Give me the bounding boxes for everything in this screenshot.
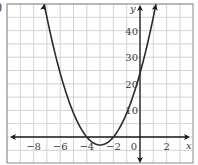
y-tick-label: 30: [125, 52, 138, 63]
y-tick-label: 10: [125, 105, 138, 116]
tick-labels: −8−6−4−20210203040: [26, 26, 170, 152]
x-tick-label: −8: [26, 141, 41, 152]
parabola-chart: −8−6−4−20210203040 x y ): [0, 0, 198, 165]
x-tick-label: 0: [131, 141, 137, 152]
y-tick-label: 40: [125, 26, 138, 37]
x-tick-label: −4: [79, 141, 94, 152]
x-tick-label: −2: [106, 141, 121, 152]
y-tick-label: 20: [125, 79, 138, 90]
x-tick-label: −6: [53, 141, 68, 152]
panel-label: ): [0, 1, 2, 14]
x-tick-label: 2: [163, 141, 169, 152]
grid: [7, 4, 193, 163]
x-axis-label: x: [186, 140, 192, 151]
y-axis-label: y: [129, 3, 136, 14]
